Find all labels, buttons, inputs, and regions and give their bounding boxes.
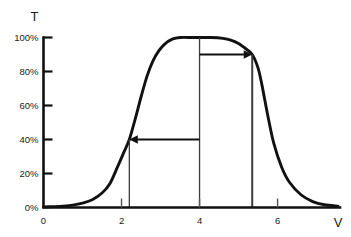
x-tick-label: 2 xyxy=(119,215,124,226)
annotation-arrows-group xyxy=(129,50,252,143)
y-tick-label: 80% xyxy=(19,66,39,77)
y-tick-label: 20% xyxy=(19,168,39,179)
x-tick-label: 6 xyxy=(275,215,280,226)
curve-group xyxy=(44,37,339,207)
y-axis-title: T xyxy=(31,9,39,24)
y-tick-label: 40% xyxy=(19,134,39,145)
transmittance-curve xyxy=(44,37,339,207)
reference-lines-group xyxy=(129,38,252,208)
axes-group xyxy=(44,38,341,208)
right-arrow xyxy=(200,50,253,58)
x-axis-title: V xyxy=(334,215,343,230)
y-tick-label: 100% xyxy=(14,32,39,43)
left-arrow xyxy=(129,135,199,143)
x-tick-label: 4 xyxy=(197,215,202,226)
x-tick-label: 0 xyxy=(41,215,46,226)
tick-labels-group: 0%20%40%60%80%100%0246 xyxy=(14,32,280,225)
chart-canvas: 0%20%40%60%80%100%0246 T V xyxy=(0,0,351,237)
tick-marks-group xyxy=(44,38,278,208)
transmittance-voltage-chart: 0%20%40%60%80%100%0246 T V xyxy=(0,0,351,237)
y-tick-label: 60% xyxy=(19,100,39,111)
y-tick-label: 0% xyxy=(25,202,39,213)
